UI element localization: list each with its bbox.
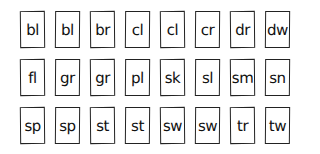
- blend-card: sw: [195, 107, 220, 144]
- blend-card: dw: [265, 11, 290, 48]
- blend-card: sm: [230, 59, 255, 96]
- blend-card-grid: bl bl br cl cl cr dr dw fl gr gr pl sk s…: [20, 11, 300, 154]
- blend-card: gr: [55, 59, 80, 96]
- blend-card: fl: [20, 59, 45, 96]
- blend-card: sp: [20, 107, 45, 144]
- blend-card: cr: [195, 11, 220, 48]
- blend-card: sp: [55, 107, 80, 144]
- blend-card: cl: [160, 11, 185, 48]
- blend-card: sw: [160, 107, 185, 144]
- blend-card: cl: [125, 11, 150, 48]
- blend-card: st: [90, 107, 115, 144]
- blend-card: tw: [265, 107, 290, 144]
- blend-card: pl: [125, 59, 150, 96]
- card-row-1: bl bl br cl cl cr dr dw: [20, 11, 300, 48]
- blend-card: bl: [55, 11, 80, 48]
- blend-card: bl: [20, 11, 45, 48]
- blend-card: sk: [160, 59, 185, 96]
- blend-card: st: [125, 107, 150, 144]
- blend-card: sn: [265, 59, 290, 96]
- card-row-2: fl gr gr pl sk sl sm sn: [20, 59, 300, 96]
- blend-card: tr: [230, 107, 255, 144]
- blend-card: dr: [230, 11, 255, 48]
- blend-card: gr: [90, 59, 115, 96]
- blend-card: br: [90, 11, 115, 48]
- blend-card: sl: [195, 59, 220, 96]
- card-row-3: sp sp st st sw sw tr tw: [20, 107, 300, 144]
